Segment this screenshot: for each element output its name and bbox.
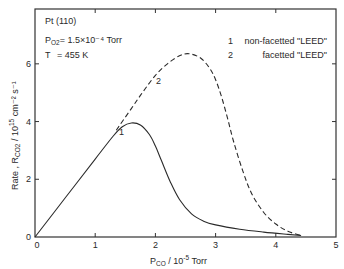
pressure-annotation: PO2= 1.5×10⁻⁴ Torr — [45, 35, 122, 46]
x-tick-label: 0 — [34, 240, 39, 250]
legend: 1 non-facetted "LEED" 2 facetted "LEED" — [228, 36, 327, 60]
y-tick-label: 4 — [26, 117, 31, 127]
x-tick-label: 2 — [153, 240, 158, 250]
series-line-1 — [35, 123, 301, 237]
x-tick-label: 4 — [273, 240, 278, 250]
legend-label-1: non-facetted "LEED" — [245, 36, 327, 46]
x-axis-label: PCO / 10-5 Torr — [150, 254, 207, 267]
legend-id-1: 1 — [228, 36, 233, 46]
data-series — [35, 54, 301, 237]
temperature-annotation: T= 455 K — [45, 50, 88, 60]
x-tick-label: 1 — [93, 240, 98, 250]
y-tick-label: 6 — [26, 59, 31, 69]
legend-id-2: 2 — [228, 50, 233, 60]
x-tick-label: 3 — [213, 240, 218, 250]
curve-label-2: 2 — [156, 76, 161, 86]
legend-label-2: facetted "LEED" — [263, 50, 327, 60]
chart-figure: 0123450246 1 2 Pt (110) PO2= 1.5×10⁻⁴ To… — [0, 0, 344, 269]
y-tick-label: 2 — [26, 174, 31, 184]
surface-annotation: Pt (110) — [45, 16, 76, 26]
y-tick-label: 0 — [26, 232, 31, 242]
curve-label-1: 1 — [119, 127, 124, 137]
series-line-2 — [116, 54, 301, 236]
y-axis-label: Rate , RCO2 / 1015 cm⁻² s⁻¹ — [8, 81, 21, 190]
x-tick-label: 5 — [333, 240, 338, 250]
